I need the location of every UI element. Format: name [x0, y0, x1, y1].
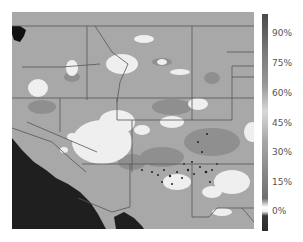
colorbar-label-15: 15%	[272, 177, 292, 187]
colorbar-label-30: 30%	[272, 147, 292, 157]
colorbar-label-75: 75%	[272, 58, 292, 68]
colorbar-label-0: 0%	[272, 206, 286, 216]
colorbar-label-60: 60%	[272, 88, 292, 98]
colorbar-label-90: 90%	[272, 28, 292, 38]
colorbar	[262, 14, 268, 231]
colorbar-label-45: 45%	[272, 118, 292, 128]
map	[12, 12, 254, 229]
